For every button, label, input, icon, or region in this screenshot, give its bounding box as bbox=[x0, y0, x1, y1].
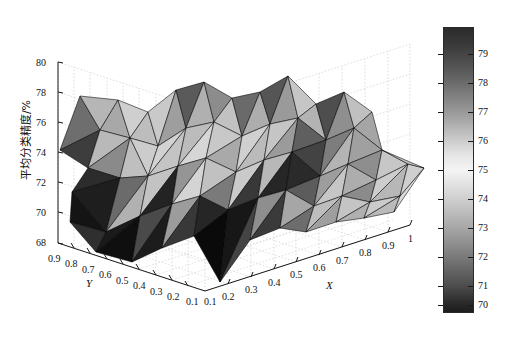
colorbar-tickmark-right bbox=[468, 199, 473, 200]
z-tick-78: 78 bbox=[36, 87, 46, 98]
colorbar-tickmark-right bbox=[468, 83, 473, 84]
colorbar-label-78: 78 bbox=[478, 77, 488, 88]
colorbar-tickmark-right bbox=[468, 305, 473, 306]
z-tick-72: 72 bbox=[36, 177, 46, 188]
x-tick-0.5: 0.5 bbox=[290, 269, 303, 280]
y-tick-0.3: 0.3 bbox=[150, 286, 163, 297]
colorbar-tickmark-right bbox=[468, 141, 473, 142]
colorbar-tickmark-right bbox=[468, 112, 473, 113]
colorbar-tickmark-right bbox=[468, 257, 473, 258]
colorbar-tickmark-right bbox=[468, 286, 473, 287]
colorbar-tickmark-right bbox=[468, 170, 473, 171]
colorbar-label-74: 74 bbox=[478, 193, 488, 204]
y-tick-0.9: 0.9 bbox=[48, 253, 61, 264]
colorbar-tickmark-right bbox=[468, 228, 473, 229]
z-tick-76: 76 bbox=[36, 117, 46, 128]
x-tick-0.1: 0.1 bbox=[204, 296, 217, 307]
z-axis-ticks bbox=[58, 62, 63, 244]
colorbar-tickmark bbox=[438, 83, 443, 84]
x-tick-0.4: 0.4 bbox=[268, 277, 281, 288]
colorbar-tickmark bbox=[438, 112, 443, 113]
z-tick-70: 70 bbox=[36, 207, 46, 218]
colorbar-label-73: 73 bbox=[478, 222, 488, 233]
x-tick-0.8: 0.8 bbox=[359, 247, 372, 258]
y-tick-0.2: 0.2 bbox=[167, 291, 180, 302]
colorbar-tickmark bbox=[438, 141, 443, 142]
z-axis-label: 平均分类精度/% bbox=[17, 85, 33, 195]
colorbar-label-79: 79 bbox=[478, 48, 488, 59]
colorbar-label-77: 77 bbox=[478, 106, 488, 117]
colorbar-tickmark bbox=[438, 305, 443, 306]
figure-3d-surface: 平均分类精度/% bbox=[0, 0, 510, 337]
colorbar-tickmark bbox=[438, 199, 443, 200]
colorbar-tickmark bbox=[438, 170, 443, 171]
colorbar-label-72: 72 bbox=[478, 251, 488, 262]
y-tick-0.8: 0.8 bbox=[65, 258, 78, 269]
x-tick-0.3: 0.3 bbox=[245, 284, 258, 295]
colorbar-tickmark-right bbox=[468, 54, 473, 55]
x-tick-1: 1 bbox=[408, 233, 413, 244]
colorbar-tickmark bbox=[438, 286, 443, 287]
z-tick-80: 80 bbox=[36, 57, 46, 68]
x-tick-0.6: 0.6 bbox=[313, 262, 326, 273]
y-axis-label: Y bbox=[86, 277, 92, 289]
y-tick-0.4: 0.4 bbox=[133, 280, 146, 291]
colorbar-label-75: 75 bbox=[478, 164, 488, 175]
x-tick-0.2: 0.2 bbox=[222, 291, 235, 302]
y-tick-0.1: 0.1 bbox=[186, 296, 199, 307]
x-axis-label: X bbox=[326, 279, 333, 291]
y-tick-0.6: 0.6 bbox=[99, 269, 112, 280]
z-tick-74: 74 bbox=[36, 147, 46, 158]
surface-plot-canvas bbox=[0, 0, 440, 337]
y-tick-0.5: 0.5 bbox=[116, 275, 129, 286]
colorbar-label-70: 70 bbox=[478, 299, 488, 310]
y-tick-0.7: 0.7 bbox=[82, 264, 95, 275]
x-tick-0.7: 0.7 bbox=[336, 255, 349, 266]
x-tick-0.9: 0.9 bbox=[382, 240, 395, 251]
z-tick-68: 68 bbox=[36, 237, 46, 248]
colorbar-tickmark bbox=[438, 228, 443, 229]
colorbar-label-76: 76 bbox=[478, 135, 488, 146]
colorbar-tickmark bbox=[438, 54, 443, 55]
colorbar-tickmark bbox=[438, 257, 443, 258]
colorbar-label-71: 71 bbox=[478, 280, 488, 291]
